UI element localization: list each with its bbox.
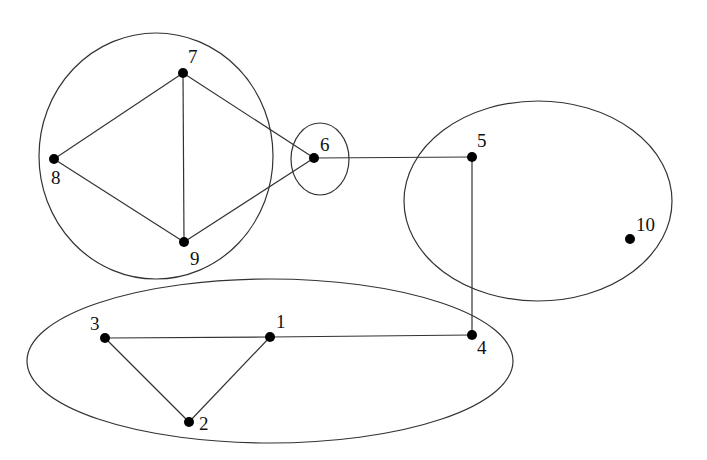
edge-4-1 (270, 335, 472, 337)
node-4 (467, 330, 477, 340)
node-3 (100, 333, 110, 343)
node-10 (625, 234, 635, 244)
edge-7-8 (54, 73, 183, 159)
cluster-d (27, 279, 513, 443)
edge-6-5 (314, 157, 472, 158)
node-8 (49, 154, 59, 164)
node-label-9: 9 (190, 248, 200, 269)
node-2 (184, 417, 194, 427)
edge-layer (54, 73, 472, 422)
node-label-5: 5 (477, 130, 487, 151)
node-9 (179, 237, 189, 247)
node-7 (178, 68, 188, 78)
node-label-10: 10 (636, 214, 655, 235)
edge-7-6 (183, 73, 314, 158)
node-label-7: 7 (188, 46, 198, 67)
cluster-layer (27, 33, 672, 443)
edge-7-9 (183, 73, 184, 242)
node-5 (467, 152, 477, 162)
label-layer: 12345678910 (51, 46, 655, 434)
graph-diagram: 12345678910 (0, 0, 707, 460)
node-label-2: 2 (199, 413, 209, 434)
node-label-6: 6 (320, 134, 330, 155)
node-1 (265, 332, 275, 342)
cluster-c (404, 101, 672, 301)
edge-8-9 (54, 159, 184, 242)
edge-3-2 (105, 338, 189, 422)
node-label-4: 4 (477, 337, 487, 358)
node-label-8: 8 (51, 167, 61, 188)
edge-1-2 (189, 337, 270, 422)
cluster-a (39, 33, 273, 279)
node-label-1: 1 (276, 311, 286, 332)
edge-1-3 (105, 337, 270, 338)
node-layer (49, 68, 635, 427)
node-label-3: 3 (90, 313, 100, 334)
edge-9-6 (184, 158, 314, 242)
node-6 (309, 153, 319, 163)
